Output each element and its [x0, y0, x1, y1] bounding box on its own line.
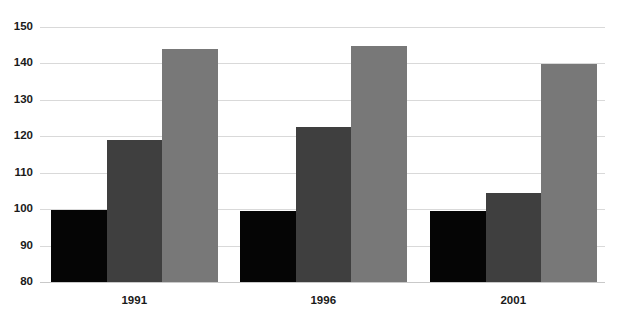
- y-tick-label-110: 110: [14, 167, 33, 179]
- y-tick-label-140: 140: [14, 57, 33, 69]
- bar-chart: 8090100110120130140150 199119962001: [0, 0, 625, 335]
- y-tick-label-90: 90: [20, 240, 33, 252]
- y-tick-label-80: 80: [20, 276, 33, 288]
- y-tick-label-150: 150: [14, 21, 33, 33]
- plot-area: [40, 27, 605, 282]
- bar-1991-series-2: [107, 140, 163, 282]
- bar-1991-series-1: [51, 210, 107, 282]
- bar-1996-series-1: [240, 211, 296, 282]
- bar-1991-series-3: [162, 49, 218, 282]
- x-tick-label-1991: 1991: [121, 295, 147, 307]
- gridline-80: [40, 282, 605, 283]
- y-tick-label-130: 130: [14, 94, 33, 106]
- y-tick-label-120: 120: [14, 130, 33, 142]
- bar-2001-series-2: [486, 193, 542, 282]
- gridline-140: [40, 63, 605, 64]
- x-tick-label-2001: 2001: [500, 295, 526, 307]
- bar-2001-series-1: [430, 211, 486, 282]
- gridline-150: [40, 27, 605, 28]
- gridline-130: [40, 100, 605, 101]
- y-tick-label-100: 100: [14, 203, 33, 215]
- bar-1996-series-3: [351, 46, 407, 282]
- bar-2001-series-3: [541, 64, 597, 282]
- x-tick-label-1996: 1996: [310, 295, 336, 307]
- bar-1996-series-2: [296, 127, 352, 282]
